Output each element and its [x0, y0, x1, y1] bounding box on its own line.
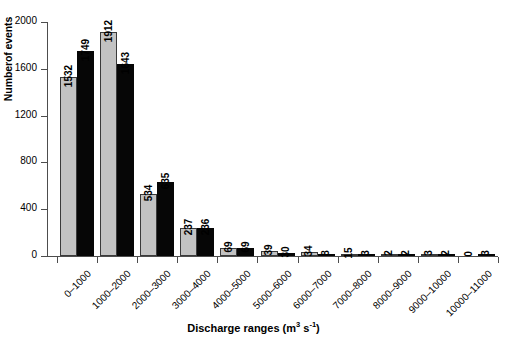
x-axis-tick: [498, 257, 499, 263]
x-axis-category-label: 3000–4000: [170, 268, 213, 311]
bar[interactable]: 1532: [60, 77, 77, 256]
x-axis-title-text: ): [316, 322, 320, 334]
y-axis-tick: 0: [41, 256, 47, 257]
x-axis-category-label: 5000–6000: [250, 268, 293, 311]
y-axis-tick-label: 2000: [15, 15, 37, 26]
bar-group: 6969: [220, 22, 254, 256]
x-axis-category-label: 1000–2000: [90, 268, 133, 311]
bar[interactable]: 635: [157, 182, 174, 256]
bar[interactable]: 534: [140, 194, 157, 256]
bar-group: 348: [301, 22, 335, 256]
bar[interactable]: 69: [237, 248, 254, 256]
bar[interactable]: 30: [278, 253, 295, 257]
x-axis-tick: [57, 257, 58, 263]
bar[interactable]: 3: [478, 254, 495, 256]
y-axis-tick: 1200: [41, 116, 47, 117]
bar-group: 32: [421, 22, 455, 256]
bar-group: 237236: [180, 22, 214, 256]
y-axis-tick-label: 800: [20, 155, 37, 166]
bar[interactable]: 236: [197, 228, 214, 256]
x-axis-title: Discharge ranges (m3 s-1): [0, 320, 507, 334]
bar[interactable]: 237: [180, 228, 197, 256]
bar[interactable]: 2: [398, 254, 415, 256]
y-axis-tick-label: 400: [20, 202, 37, 213]
x-axis-tick: [257, 257, 258, 263]
y-axis-tick: 1600: [41, 69, 47, 70]
y-axis-tick: 400: [41, 209, 47, 210]
y-axis-tick-label: 0: [31, 249, 37, 260]
x-axis-category-label: 4000–5000: [210, 268, 253, 311]
bar-chart-figure: Numberof events 0400800120016002000 1532…: [0, 0, 507, 349]
bar[interactable]: 1749: [77, 51, 94, 256]
y-axis-tick-label: 1600: [15, 62, 37, 73]
bar-group: 3930: [261, 22, 295, 256]
bar-group: 03: [461, 22, 495, 256]
bar-group: 534635: [140, 22, 174, 256]
bar[interactable]: 3: [358, 254, 375, 256]
bar[interactable]: 3: [421, 254, 438, 256]
x-axis-tick: [418, 257, 419, 263]
bar[interactable]: 39: [261, 251, 278, 256]
x-axis-category-label: 0–1000: [62, 268, 93, 299]
y-axis-tick-label: 1200: [15, 109, 37, 120]
x-axis-tick: [298, 257, 299, 263]
bar-group: 19121643: [100, 22, 134, 256]
x-axis-tick: [458, 257, 459, 263]
x-axis-tick: [137, 257, 138, 263]
x-axis-line: [47, 256, 498, 257]
plot-area: 0400800120016002000 15321749191216435346…: [57, 22, 498, 256]
x-axis-category-label: 6000–7000: [290, 268, 333, 311]
bar[interactable]: 69: [220, 248, 237, 256]
bar[interactable]: 1643: [117, 64, 134, 256]
bar[interactable]: 15: [341, 254, 358, 256]
y-axis-tick: 2000: [41, 22, 47, 23]
x-axis-tick: [378, 257, 379, 263]
x-axis-tick: [217, 257, 218, 263]
x-axis-tick: [97, 257, 98, 263]
bar[interactable]: 1912: [100, 32, 117, 256]
bar[interactable]: 2: [381, 254, 398, 256]
y-axis-line: [47, 22, 48, 256]
bar[interactable]: 8: [318, 254, 335, 256]
y-axis-tick: 800: [41, 162, 47, 163]
x-axis-title-text: Discharge ranges (m: [187, 322, 296, 334]
x-axis-tick: [177, 257, 178, 263]
x-axis-tick: [338, 257, 339, 263]
bar[interactable]: 34: [301, 252, 318, 256]
x-axis-category-label: 7000–8000: [330, 268, 373, 311]
bar-group: 15321749: [60, 22, 94, 256]
x-axis-category-label: 2000–3000: [130, 268, 173, 311]
bar[interactable]: 2: [438, 254, 455, 256]
bar-group: 153: [341, 22, 375, 256]
bar-group: 22: [381, 22, 415, 256]
